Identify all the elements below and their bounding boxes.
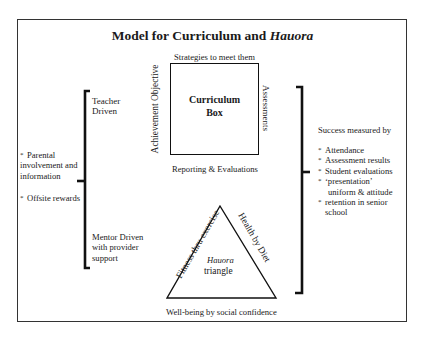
success-item-text: Student evaluations (325, 166, 393, 176)
note-text: involvement and (20, 160, 78, 170)
bullet-icon: * (20, 150, 27, 160)
note-text: Offsite rewards (27, 193, 80, 203)
triangle-center-label: triangle (204, 266, 233, 276)
box-bottom-label: Reporting & Evaluations (172, 164, 258, 174)
bullet-icon: * (318, 197, 325, 207)
teacher-driven-line1: Teacher (92, 96, 120, 106)
teacher-driven-label: Teacher Driven (92, 96, 120, 117)
note-text: Parental (27, 150, 55, 160)
box-center-line1: Curriculum (170, 94, 259, 107)
bullet-icon: * (20, 193, 27, 203)
success-item: *retention in seniorschool (318, 197, 393, 218)
triangle-center-italic: Hauora (207, 255, 234, 265)
mentor-driven-line2: with provider (92, 242, 143, 252)
left-bracket (77, 91, 90, 268)
success-item: *‘presentation’uniform & attitude (318, 176, 393, 197)
box-top-label: Strategies to meet them (174, 52, 255, 62)
success-item-text: Attendance (325, 145, 364, 155)
right-bracket (295, 87, 310, 293)
success-item: *Assessment results (318, 155, 393, 165)
bullet-icon: * (318, 176, 325, 186)
bullet-icon: * (318, 145, 325, 155)
success-heading: Success measured by (318, 125, 391, 135)
box-center-line2: Box (170, 107, 259, 120)
note-text: information (20, 171, 78, 181)
success-item-text: Assessment results (325, 155, 390, 165)
triangle-right-side-label: Health by Diet (236, 211, 272, 264)
left-note-offsite: *Offsite rewards (20, 193, 80, 203)
box-left-label: Achievement Objective (150, 65, 160, 154)
success-item-text: school (318, 207, 347, 217)
success-item: *Student evaluations (318, 166, 393, 176)
box-right-label: Assessments (261, 85, 271, 131)
bullet-icon: * (318, 155, 325, 165)
bullet-icon: * (318, 166, 325, 176)
left-note-parental: *Parental involvement and information (20, 150, 78, 181)
success-item: *Attendance (318, 145, 393, 155)
teacher-driven-line2: Driven (92, 106, 120, 116)
triangle-bottom-label: Well-being by social confidence (166, 307, 277, 317)
mentor-driven-label: Mentor Driven with provider support (92, 232, 143, 263)
success-item-text: ‘presentation’ (325, 176, 373, 186)
success-item-text: retention in senior (325, 197, 388, 207)
success-item-text: uniform & attitude (318, 187, 392, 197)
mentor-driven-line1: Mentor Driven (92, 232, 143, 242)
box-center-label: Curriculum Box (170, 94, 259, 119)
mentor-driven-line3: support (92, 253, 143, 263)
success-list: *Attendance *Assessment results *Student… (318, 145, 393, 218)
